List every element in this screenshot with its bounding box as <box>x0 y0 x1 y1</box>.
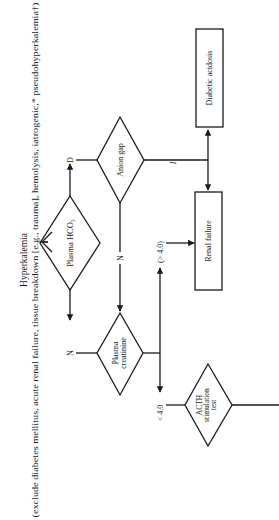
edge-label-n-hco3: N <box>66 350 75 356</box>
hco3-label: Plasma HCO₃ <box>65 219 75 267</box>
flowchart: Hyperkalemia (exclude diabetes mellitus,… <box>0 0 279 520</box>
edge-label-d: D <box>66 157 75 163</box>
diagram-title: Hyperkalemia <box>19 232 29 287</box>
diagram-subtitle: (exclude diabetes mellitus, acute renal … <box>31 2 40 517</box>
anion-gap-label: Anion gap <box>116 143 125 177</box>
acth-label-3: test <box>209 399 218 410</box>
edge-label-low: < 4.0 <box>156 405 165 422</box>
edge-label-high: (> 4.0) <box>156 241 165 263</box>
diabetic-acidosis-label: Diabetic acidosis <box>205 51 214 106</box>
edge-label-n-anion: N <box>116 255 125 261</box>
edge-label-i: I <box>169 161 178 165</box>
title-bracket-2 <box>42 242 52 252</box>
renal-failure-label: Renal failure <box>204 220 213 262</box>
creatinine-label-2: creatinine <box>119 337 128 369</box>
